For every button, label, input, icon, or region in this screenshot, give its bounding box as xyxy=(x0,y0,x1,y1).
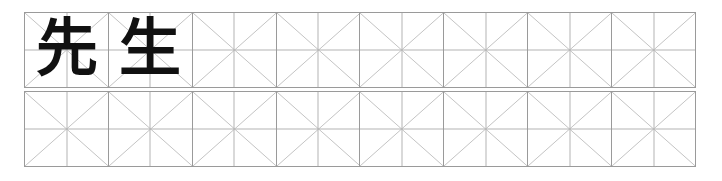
center-horizontal-guide xyxy=(528,50,611,51)
practice-cell[interactable] xyxy=(276,91,361,167)
center-vertical-guide xyxy=(402,92,403,166)
diagonal-guides-icon xyxy=(193,13,276,87)
diagonal-guides-icon xyxy=(25,92,108,166)
practice-cell[interactable] xyxy=(276,12,361,88)
center-vertical-guide xyxy=(485,92,486,166)
practice-cell[interactable] xyxy=(108,91,193,167)
grid-row: 先 生 xyxy=(24,12,706,88)
practice-cell[interactable] xyxy=(24,91,109,167)
diagonal-guides-icon xyxy=(528,92,611,166)
center-vertical-guide xyxy=(485,13,486,87)
diagonal-guides-icon xyxy=(277,92,360,166)
diagonal-guides-icon xyxy=(444,92,527,166)
diagonal-guides-icon xyxy=(444,13,527,87)
practice-cell[interactable]: 先 xyxy=(24,12,109,88)
practice-cell[interactable] xyxy=(611,12,696,88)
diagonal-guides-icon xyxy=(528,13,611,87)
character-practice-worksheet: 先 生 xyxy=(0,0,722,181)
center-horizontal-guide xyxy=(612,129,695,130)
center-vertical-guide xyxy=(234,92,235,166)
practice-cell[interactable] xyxy=(611,91,696,167)
practice-cell[interactable]: 生 xyxy=(108,12,193,88)
center-vertical-guide xyxy=(569,92,570,166)
cell-character: 生 xyxy=(109,13,192,87)
center-vertical-guide xyxy=(653,13,654,87)
practice-cell[interactable] xyxy=(443,91,528,167)
diagonal-guides-icon xyxy=(277,13,360,87)
practice-cell[interactable] xyxy=(443,12,528,88)
center-horizontal-guide xyxy=(612,50,695,51)
center-horizontal-guide xyxy=(193,129,276,130)
practice-cell[interactable] xyxy=(359,91,444,167)
center-vertical-guide xyxy=(402,13,403,87)
center-horizontal-guide xyxy=(25,129,108,130)
center-vertical-guide xyxy=(318,92,319,166)
center-horizontal-guide xyxy=(109,129,192,130)
center-vertical-guide xyxy=(66,92,67,166)
center-horizontal-guide xyxy=(528,129,611,130)
center-vertical-guide xyxy=(653,92,654,166)
cell-character: 先 xyxy=(25,13,108,87)
practice-grid: 先 生 xyxy=(24,12,706,167)
center-vertical-guide xyxy=(318,13,319,87)
center-horizontal-guide xyxy=(193,50,276,51)
practice-cell[interactable] xyxy=(527,12,612,88)
center-horizontal-guide xyxy=(444,50,527,51)
center-horizontal-guide xyxy=(277,50,360,51)
center-horizontal-guide xyxy=(444,129,527,130)
diagonal-guides-icon xyxy=(360,13,443,87)
center-horizontal-guide xyxy=(360,50,443,51)
diagonal-guides-icon xyxy=(612,13,695,87)
diagonal-guides-icon xyxy=(109,92,192,166)
center-vertical-guide xyxy=(150,92,151,166)
practice-cell[interactable] xyxy=(359,12,444,88)
practice-cell[interactable] xyxy=(192,12,277,88)
center-horizontal-guide xyxy=(360,129,443,130)
practice-cell[interactable] xyxy=(527,91,612,167)
center-vertical-guide xyxy=(569,13,570,87)
practice-cell[interactable] xyxy=(192,91,277,167)
diagonal-guides-icon xyxy=(193,92,276,166)
diagonal-guides-icon xyxy=(612,92,695,166)
grid-row xyxy=(24,91,706,167)
center-horizontal-guide xyxy=(277,129,360,130)
center-vertical-guide xyxy=(234,13,235,87)
diagonal-guides-icon xyxy=(360,92,443,166)
